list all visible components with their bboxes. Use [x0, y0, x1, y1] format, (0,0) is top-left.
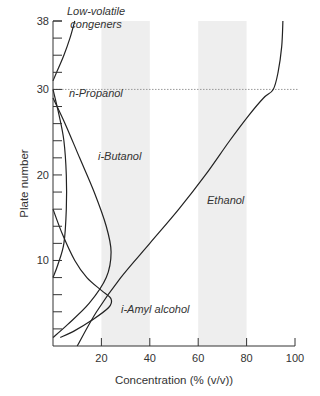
series-label-low-volatile-congeners: Low-volatile	[67, 5, 125, 17]
curves	[53, 21, 283, 346]
y-tick-label: 20	[37, 169, 49, 181]
x-tick-label: 40	[144, 352, 156, 364]
x-tick-label: 20	[95, 352, 107, 364]
y-tick-label: 38	[37, 15, 49, 27]
x-tick-label: 60	[192, 352, 204, 364]
y-ticks: 10203038	[37, 15, 62, 329]
curve-n-propanol	[53, 89, 67, 277]
series-label-n-propanol: n-Propanol	[69, 87, 123, 99]
y-tick-label: 10	[37, 254, 49, 266]
x-axis-title: Concentration (% (v/v))	[115, 374, 233, 386]
shaded-band-60-80	[198, 21, 246, 346]
chart: 10203038 20406080100 Low-volatilecongene…	[0, 0, 320, 396]
y-tick-label: 30	[37, 83, 49, 95]
series-label-i-butanol: i-Butanol	[98, 150, 142, 162]
y-axis-title: Plate number	[18, 149, 30, 218]
shaded-band-20-40	[101, 21, 149, 346]
x-tick-label: 80	[240, 352, 252, 364]
series-label-ethanol: Ethanol	[207, 194, 245, 206]
series-label-low-volatile-congeners: congeners	[70, 18, 122, 30]
x-tick-label: 100	[286, 352, 304, 364]
shaded-bands	[101, 21, 246, 346]
series-label-i-amyl-alcohol: i-Amyl alcohol	[121, 303, 190, 315]
